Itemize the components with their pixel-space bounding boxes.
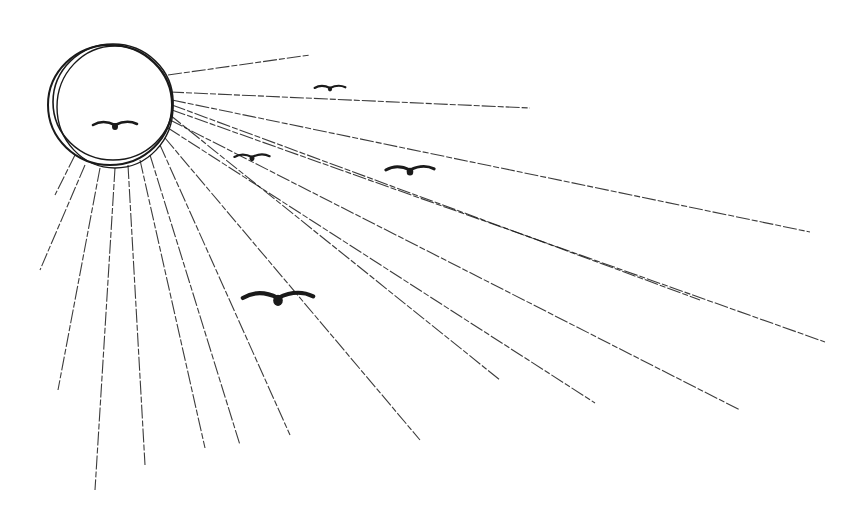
- bird-body: [273, 295, 283, 306]
- sun-ray: [172, 105, 700, 300]
- sun-outline: [48, 45, 172, 165]
- sun-sketch: [0, 0, 860, 531]
- bird-body: [328, 87, 332, 92]
- sun-ray: [170, 92, 530, 108]
- sun-ray: [160, 145, 290, 435]
- sun-ray: [128, 165, 145, 465]
- sun-ray: [172, 100, 810, 232]
- sun-ray: [170, 115, 500, 380]
- sun-ray: [165, 138, 420, 440]
- sun-ray: [170, 120, 740, 410]
- sun-ray: [140, 160, 205, 448]
- sun-ray: [95, 168, 115, 490]
- sun-ray: [55, 155, 75, 195]
- sun-ray: [58, 168, 100, 390]
- sun-ray: [168, 55, 310, 75]
- bird-body: [112, 123, 118, 130]
- bird-body: [407, 168, 414, 176]
- bird-body: [250, 155, 255, 161]
- sun-ray: [168, 128, 595, 403]
